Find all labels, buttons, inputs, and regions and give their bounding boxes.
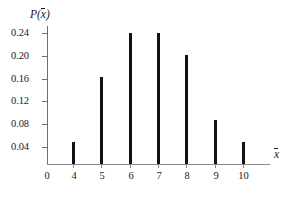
y-tick-label: 0.24 — [11, 27, 38, 38]
y-tick-label: 0.20 — [11, 50, 38, 61]
y-axis-label-xbar: x — [41, 8, 46, 20]
x-axis-label: x — [274, 148, 279, 160]
y-tick-mark — [42, 33, 48, 34]
y-tick-label: 0.16 — [11, 73, 38, 84]
y-tick-label: 0.08 — [11, 118, 38, 129]
bar-8 — [185, 55, 188, 164]
y-axis-label: P(x) — [30, 8, 50, 20]
x-tick-label: 7 — [149, 170, 169, 181]
x-tick-label: 4 — [64, 170, 84, 181]
y-tick-mark — [42, 79, 48, 80]
bar-7 — [157, 33, 160, 164]
y-tick-mark — [42, 147, 48, 148]
x-axis-label-xbar: x — [274, 148, 279, 160]
y-tick-mark — [42, 56, 48, 57]
bar-5 — [100, 77, 103, 164]
x-tick-label: 8 — [177, 170, 197, 181]
x-tick-mark — [130, 164, 131, 168]
bar-9 — [214, 120, 217, 164]
y-axis-label-paren: ) — [46, 8, 50, 20]
bar-6 — [129, 33, 132, 164]
bar-10 — [242, 142, 245, 164]
y-axis-label-p: P( — [30, 8, 41, 20]
probability-distribution-chart: P(x) 0.24 0.20 0.16 0.12 0.08 0.04 0 4 5… — [0, 0, 300, 198]
x-tick-label: 9 — [206, 170, 226, 181]
x-tick-label: 0 — [37, 170, 57, 181]
x-tick-label: 5 — [92, 170, 112, 181]
x-tick-mark — [101, 164, 102, 168]
x-tick-label: 6 — [121, 170, 141, 181]
y-axis-line — [47, 26, 48, 165]
x-tick-mark — [215, 164, 216, 168]
y-tick-mark — [42, 124, 48, 125]
x-tick-mark — [243, 164, 244, 168]
y-tick-label: 0.04 — [11, 141, 38, 152]
y-tick-label: 0.12 — [11, 95, 38, 106]
y-tick-mark — [42, 101, 48, 102]
x-tick-mark — [158, 164, 159, 168]
x-tick-mark — [73, 164, 74, 168]
x-tick-mark — [186, 164, 187, 168]
bar-4 — [72, 142, 75, 164]
x-tick-label: 10 — [233, 170, 254, 181]
